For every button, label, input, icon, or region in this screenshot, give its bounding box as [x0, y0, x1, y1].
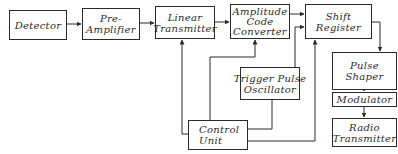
amplitude-code-converter-label-1: Amplitude — [233, 7, 288, 17]
detector-block: Detector — [9, 10, 67, 40]
control-unit-label-1: Control — [199, 124, 239, 135]
linear-transmitter-block: Linear Transmitter — [155, 6, 215, 39]
modulator-label: Modulator — [337, 94, 393, 105]
trigger-pulse-oscillator-label-1: Trigger Pulse — [234, 73, 307, 84]
pulse-shaper-block: Pulse Shaper — [332, 52, 397, 90]
amplitude-code-converter-label-2: Code — [246, 17, 273, 27]
linear-transmitter-label-1: Linear — [168, 12, 203, 23]
amplitude-code-converter-label-3: Converter — [233, 27, 287, 37]
trigger-pulse-oscillator-block: Trigger Pulse Oscillator — [240, 67, 300, 100]
block-diagram: Detector Pre- Amplifier Linear Transmitt… — [0, 0, 398, 154]
radio-transmitter-label-2: Transmitter — [333, 133, 397, 144]
line-trigger-to-control — [248, 100, 272, 129]
shift-register-block: Shift Register — [305, 4, 372, 39]
radio-transmitter-block: Radio Transmitter — [332, 118, 397, 147]
control-unit-block: Control Unit — [188, 120, 248, 150]
pre-amplifier-label-2: Amplifier — [86, 24, 136, 35]
amplitude-code-converter-block: Amplitude Code Converter — [230, 4, 290, 39]
shift-register-label-1: Shift — [326, 11, 352, 22]
pulse-shaper-label-2: Shaper — [345, 71, 383, 82]
shift-register-label-2: Register — [316, 22, 361, 33]
arrow-trigger-to-shift — [295, 27, 304, 67]
modulator-block: Modulator — [332, 92, 397, 107]
linear-transmitter-label-2: Transmitter — [153, 23, 217, 34]
trigger-pulse-oscillator-label-2: Oscillator — [244, 84, 296, 95]
control-unit-label-2: Unit — [199, 135, 222, 146]
pre-amplifier-label-1: Pre- — [100, 13, 122, 24]
pulse-shaper-label-1: Pulse — [350, 60, 379, 71]
detector-label: Detector — [15, 20, 62, 31]
pre-amplifier-block: Pre- Amplifier — [82, 8, 140, 40]
arrow-shift-to-pulse — [372, 22, 380, 51]
radio-transmitter-label-1: Radio — [349, 122, 380, 133]
